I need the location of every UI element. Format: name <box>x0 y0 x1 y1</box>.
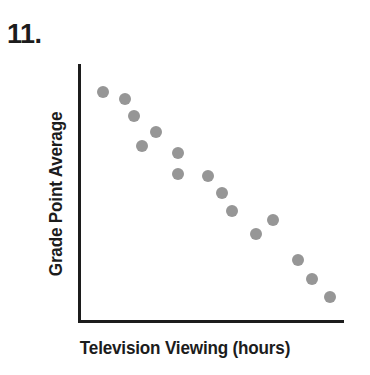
data-point <box>150 126 162 138</box>
scatter-plot-figure: 11. Grade Point Average Television Viewi… <box>0 0 370 375</box>
plot-area <box>78 64 344 323</box>
data-point <box>172 147 184 159</box>
data-point <box>267 214 279 226</box>
y-axis-label-container: Grade Point Average <box>44 64 68 323</box>
data-point <box>97 86 109 98</box>
data-point <box>306 273 318 285</box>
data-point <box>292 254 304 266</box>
data-point <box>172 168 184 180</box>
question-number: 11. <box>7 21 42 48</box>
y-axis-line <box>78 64 81 323</box>
x-axis-line <box>78 320 344 323</box>
data-point <box>226 205 238 217</box>
data-point <box>128 110 140 122</box>
data-point <box>250 228 262 240</box>
data-point <box>119 93 131 105</box>
data-point <box>136 140 148 152</box>
x-axis-label: Television Viewing (hours) <box>19 337 352 359</box>
data-point <box>216 187 228 199</box>
data-point <box>324 291 336 303</box>
y-axis-label: Grade Point Average <box>45 111 67 275</box>
data-point <box>202 170 214 182</box>
